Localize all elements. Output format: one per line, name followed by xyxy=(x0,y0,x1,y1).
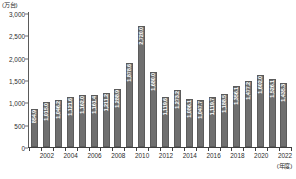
bar-slot: 1,119.7 xyxy=(207,14,219,147)
bar-value-label: 1,119.7 xyxy=(209,98,216,116)
bar-chart: (万台) 854.91,015.01,046.21,121.61,162.01,… xyxy=(0,0,296,179)
bar[interactable]: 1,477.2 xyxy=(245,81,252,147)
x-tick-label: 2006 xyxy=(87,151,101,160)
bar-value-label: 1,477.2 xyxy=(245,82,252,101)
bar-value-label: 1,161.4 xyxy=(91,96,98,115)
bar[interactable]: 1,086.1 xyxy=(186,99,193,148)
y-tick-label: 500 xyxy=(14,122,25,129)
bar-value-label: 1,047.7 xyxy=(197,101,204,120)
bar-slot: 854.9 xyxy=(29,14,41,147)
x-axis-unit-label: (年度) xyxy=(277,162,292,170)
bar-slot: 1,015.0 xyxy=(41,14,53,147)
x-tick-label: 2014 xyxy=(183,151,197,160)
bar-slot: 1,121.6 xyxy=(65,14,77,147)
bar[interactable]: 1,046.2 xyxy=(55,100,62,147)
y-tick-mark xyxy=(25,58,28,59)
bar-slot: 1,602.0 xyxy=(254,14,266,147)
bar-value-label: 1,046.2 xyxy=(55,101,62,120)
bar[interactable]: 1,602.0 xyxy=(257,75,264,147)
bar-value-label: 1,119.6 xyxy=(162,98,169,116)
y-tick-label: 3,000 xyxy=(9,11,25,18)
bar-slot: 1,273.2 xyxy=(171,14,183,147)
bar-value-label: 854.9 xyxy=(31,110,38,124)
bar-slot: 1,680.0 xyxy=(148,14,160,147)
bar[interactable]: 1,047.7 xyxy=(197,100,204,147)
bar[interactable]: 1,162.0 xyxy=(79,95,86,147)
y-tick-label: 1,000 xyxy=(9,100,25,107)
x-tick-label: 2016 xyxy=(206,151,220,160)
bar-slot: 2,720.0 xyxy=(136,14,148,147)
bar[interactable]: 1,273.2 xyxy=(174,90,181,147)
bar-value-label: 1,435.3 xyxy=(280,84,287,103)
bar[interactable]: 1,119.6 xyxy=(162,97,169,147)
x-tick-label: 2012 xyxy=(159,151,173,160)
bar-slot: 1,086.1 xyxy=(183,14,195,147)
bar-slot: 1,526.1 xyxy=(266,14,278,147)
bar[interactable]: 1,211.2 xyxy=(103,93,110,147)
bar[interactable]: 1,161.4 xyxy=(91,95,98,147)
bar-value-label: 1,211.2 xyxy=(103,94,110,112)
bar[interactable]: 1,288.9 xyxy=(114,89,121,147)
bar-value-label: 1,015.0 xyxy=(43,103,50,122)
bar-value-label: 1,602.0 xyxy=(257,76,264,95)
x-axis-labels: 2002200420062008201020122014201620182020… xyxy=(29,151,291,161)
bar-slot: 1,288.9 xyxy=(112,14,124,147)
bar-value-label: 1,356.1 xyxy=(233,87,240,106)
bar[interactable]: 1,121.6 xyxy=(67,97,74,147)
y-tick-label: 2,000 xyxy=(9,55,25,62)
bar-value-label: 1,188.5 xyxy=(221,95,228,114)
bar-slot: 1,211.2 xyxy=(100,14,112,147)
x-tick-label: 2008 xyxy=(111,151,125,160)
x-tick-label: 2022 xyxy=(278,151,292,160)
bar[interactable]: 1,878.6 xyxy=(126,63,133,147)
bar[interactable]: 2,720.0 xyxy=(138,26,145,147)
y-tick-mark xyxy=(25,81,28,82)
y-tick-mark xyxy=(25,125,28,126)
bar-slot: 1,119.6 xyxy=(159,14,171,147)
bar-value-label: 1,680.0 xyxy=(150,73,157,92)
bar-slot: 1,046.2 xyxy=(53,14,65,147)
bar-value-label: 2,720.0 xyxy=(138,27,145,46)
y-tick-label: 2,500 xyxy=(9,33,25,40)
bar[interactable]: 1,526.1 xyxy=(269,79,276,147)
bar-slot: 1,188.5 xyxy=(219,14,231,147)
x-tick-label: 2018 xyxy=(230,151,244,160)
bar-value-label: 1,086.1 xyxy=(186,100,193,119)
bar-value-label: 1,162.0 xyxy=(79,96,86,115)
bar[interactable]: 1,680.0 xyxy=(150,72,157,147)
y-tick-mark xyxy=(25,36,28,37)
y-axis-unit-label: (万台) xyxy=(2,1,17,8)
y-tick-label: 1,500 xyxy=(9,78,25,85)
bar-slot: 1,162.0 xyxy=(76,14,88,147)
y-tick-mark xyxy=(25,103,28,104)
bar[interactable]: 1,188.5 xyxy=(221,94,228,147)
y-tick-mark xyxy=(25,148,28,149)
bar-slot: 1,356.1 xyxy=(231,14,243,147)
x-tick-label: 2010 xyxy=(135,151,149,160)
bar-value-label: 1,273.2 xyxy=(174,91,181,110)
x-tick-label: 2002 xyxy=(40,151,54,160)
bar[interactable]: 854.9 xyxy=(31,109,38,147)
bar-series: 854.91,015.01,046.21,121.61,162.01,161.4… xyxy=(29,14,290,147)
x-tick-label: 2020 xyxy=(254,151,268,160)
bar-value-label: 1,288.9 xyxy=(114,90,121,109)
bar-slot: 1,477.2 xyxy=(242,14,254,147)
bar[interactable]: 1,119.7 xyxy=(209,97,216,147)
bar-value-label: 1,878.6 xyxy=(126,64,133,83)
bar[interactable]: 1,435.3 xyxy=(280,83,287,147)
y-tick-mark xyxy=(25,14,28,15)
bar[interactable]: 1,356.1 xyxy=(233,86,240,147)
bar-slot: 1,435.3 xyxy=(278,14,290,147)
bar-slot: 1,878.6 xyxy=(124,14,136,147)
bar[interactable]: 1,015.0 xyxy=(43,102,50,147)
plot-area: 854.91,015.01,046.21,121.61,162.01,161.4… xyxy=(28,14,290,148)
bar-slot: 1,047.7 xyxy=(195,14,207,147)
bar-value-label: 1,526.1 xyxy=(269,80,276,99)
x-tick-label: 2004 xyxy=(64,151,78,160)
bar-slot: 1,161.4 xyxy=(88,14,100,147)
bar-value-label: 1,121.6 xyxy=(67,98,74,117)
